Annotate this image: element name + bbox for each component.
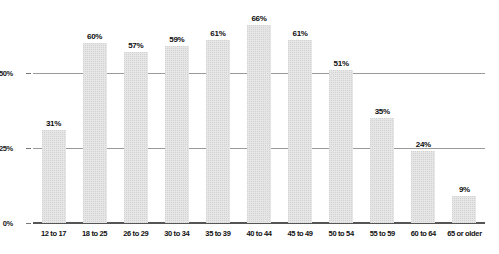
x-tick-label: 65 or older <box>440 229 488 238</box>
bar[interactable] <box>288 40 312 223</box>
bar[interactable] <box>83 43 107 223</box>
bar-group[interactable]: 61% <box>197 8 238 223</box>
y-tick-label: 50% <box>0 69 13 78</box>
bar[interactable] <box>165 46 189 223</box>
bar[interactable] <box>124 52 148 223</box>
y-tick-label: 25% <box>0 144 13 153</box>
bar[interactable] <box>329 70 353 223</box>
bar-group[interactable]: 57% <box>115 8 156 223</box>
bar-group[interactable]: 59% <box>156 8 197 223</box>
bar[interactable] <box>370 118 394 223</box>
bar-value-label: 31% <box>46 119 61 128</box>
bar-value-label: 9% <box>459 185 470 194</box>
bar-value-label: 61% <box>210 29 225 38</box>
bar[interactable] <box>452 196 476 223</box>
bar-group[interactable]: 60% <box>74 8 115 223</box>
plot-area: 0%25%50% 31%60%57%59%61%66%61%51%35%24%9… <box>33 8 485 223</box>
bar[interactable] <box>247 25 271 223</box>
bar-chart: 0%25%50% 31%60%57%59%61%66%61%51%35%24%9… <box>0 0 499 254</box>
bar-value-label: 51% <box>334 59 349 68</box>
bar-value-label: 24% <box>416 140 431 149</box>
y-tick-mark <box>26 73 31 74</box>
bar-value-label: 60% <box>87 32 102 41</box>
bar[interactable] <box>42 130 66 223</box>
bar-group[interactable]: 51% <box>321 8 362 223</box>
bar-group[interactable]: 35% <box>362 8 403 223</box>
x-axis: 12 to 1718 to 2526 to 2930 to 3435 to 39… <box>33 229 485 245</box>
y-tick-label: 0% <box>0 219 13 228</box>
bar-value-label: 61% <box>293 29 308 38</box>
bar[interactable] <box>411 151 435 223</box>
bar-group[interactable]: 31% <box>33 8 74 223</box>
y-tick-mark <box>26 148 31 149</box>
bar-group[interactable]: 24% <box>403 8 444 223</box>
bar-group[interactable]: 61% <box>280 8 321 223</box>
bar[interactable] <box>206 40 230 223</box>
bar-group[interactable]: 9% <box>444 8 485 223</box>
bars-layer: 31%60%57%59%61%66%61%51%35%24%9% <box>33 8 485 223</box>
bar-value-label: 66% <box>251 14 266 23</box>
bar-value-label: 59% <box>169 35 184 44</box>
bar-group[interactable]: 66% <box>238 8 279 223</box>
y-tick-mark <box>26 223 31 224</box>
bar-value-label: 57% <box>128 41 143 50</box>
bar-value-label: 35% <box>375 107 390 116</box>
